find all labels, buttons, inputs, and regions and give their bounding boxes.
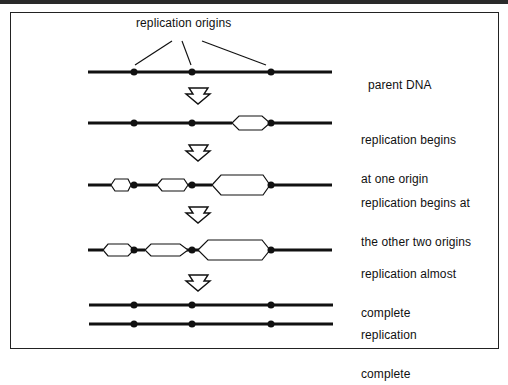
origin-pointer-lines [135,41,266,65]
stage-label-line: parent DNA [368,78,432,92]
stage-label-complete: replication complete [361,303,417,385]
stage-label-parent: parent DNA [361,66,432,92]
origin-dots [131,69,275,328]
stage3-strand [88,175,332,195]
stage-label-line: complete [361,368,417,381]
stage4-strand [88,240,332,260]
stage-label-line: replication begins [361,134,456,147]
stage5-strands [89,305,333,324]
stage2-strand [88,116,332,130]
replication-origins-label: replication origins [136,17,231,30]
stage-label-line: replication [361,329,417,342]
stage-label-line: replication almost [361,268,456,281]
down-arrow-icon [186,88,210,291]
stage-label-line: replication begins at [361,197,471,210]
